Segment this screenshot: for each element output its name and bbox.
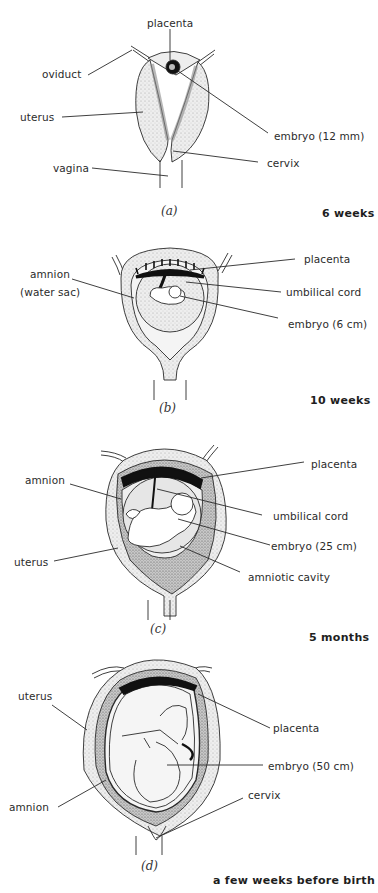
panel-d-caption: (d) [141, 859, 158, 873]
label-d-amnion: amnion [9, 801, 49, 813]
label-d-embryo: embryo (50 cm) [268, 760, 354, 772]
label-c-amnion: amnion [25, 474, 65, 486]
label-d-cervix: cervix [248, 789, 281, 801]
label-c-umbilical-cord: umbilical cord [273, 510, 348, 522]
panel-b-stage: 10 weeks [310, 394, 370, 407]
panel-d-stage: a few weeks before birth [213, 874, 375, 887]
panel-d-illustration [52, 660, 270, 855]
panel-c-caption: (c) [150, 622, 166, 636]
panel-a-caption: (a) [161, 204, 178, 218]
label-b-umbilical-cord: umbilical cord [286, 286, 361, 298]
label-d-placenta: placenta [273, 722, 319, 734]
label-d-uterus: uterus [18, 690, 52, 702]
panel-b-caption: (b) [159, 401, 176, 415]
label-a-embryo: embryo (12 mm) [274, 130, 364, 142]
label-c-embryo: embryo (25 cm) [271, 540, 357, 552]
label-a-oviduct: oviduct [42, 68, 81, 80]
label-a-placenta: placenta [147, 17, 193, 29]
panel-a-illustration [62, 29, 268, 188]
label-a-cervix: cervix [267, 157, 300, 169]
panel-a-stage: 6 weeks [322, 207, 375, 220]
label-c-placenta: placenta [311, 458, 357, 470]
label-c-amniotic-cavity: amniotic cavity [248, 571, 330, 583]
label-a-vagina: vagina [53, 162, 89, 174]
label-b-embryo: embryo (6 cm) [288, 318, 367, 330]
label-b-placenta: placenta [304, 253, 350, 265]
label-b-water-sac: (water sac) [20, 286, 80, 298]
label-a-uterus: uterus [20, 111, 54, 123]
label-b-amnion: amnion [30, 268, 70, 280]
panel-c-illustration [54, 445, 304, 620]
label-c-uterus: uterus [14, 556, 48, 568]
panel-b-illustration [72, 248, 295, 400]
panel-c-stage: 5 months [309, 631, 369, 644]
